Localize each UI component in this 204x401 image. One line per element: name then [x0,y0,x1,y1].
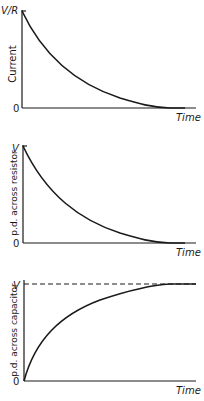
rise-curve [24,284,196,381]
x-axis-label: Time [176,385,201,396]
capacitor-chart: V 0 p.d. across capacitor Time [0,270,204,401]
resistor-chart: V 0 p.d. across resistor Time [0,135,204,265]
decay-curve [22,11,185,108]
capacitor-chart-svg: V 0 p.d. across capacitor Time [0,270,204,401]
current-chart-svg: V/R 0 Current Time [0,0,204,130]
resistor-chart-svg: V 0 p.d. across resistor Time [0,135,204,265]
y-axis-label: Current [7,45,18,83]
y-zero-label: 0 [13,103,19,114]
decay-curve [23,146,185,243]
y-max-label: V/R [1,5,18,16]
x-axis-label: Time [176,112,201,123]
x-axis-label: Time [176,247,201,258]
current-chart: V/R 0 Current Time [0,0,204,130]
y-zero-label: 0 [13,238,19,249]
y-axis-label: p.d. across capacitor [9,283,19,377]
y-axis-label: p.d. across resistor [9,150,19,236]
